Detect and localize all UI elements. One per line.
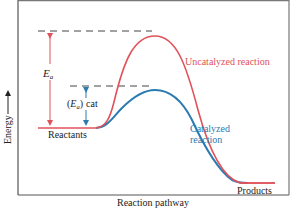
y-axis-label: Energy xyxy=(2,115,13,144)
catalyzed-label-line2: reaction xyxy=(190,134,222,145)
plot-frame xyxy=(18,0,289,195)
catalyzed-curve xyxy=(96,90,248,183)
catalyzed-label-line1: Catalyzed xyxy=(190,123,230,134)
products-label: Products xyxy=(237,185,272,196)
ea-cat-label: (Ea)cat xyxy=(67,98,98,110)
uncatalyzed-label: Uncatalyzed reaction xyxy=(185,56,270,67)
energy-diagram: Ea (Ea)cat Reactants Products Uncatalyze… xyxy=(0,0,294,208)
reactants-label: Reactants xyxy=(48,129,87,140)
x-axis-label: Reaction pathway xyxy=(117,197,189,208)
